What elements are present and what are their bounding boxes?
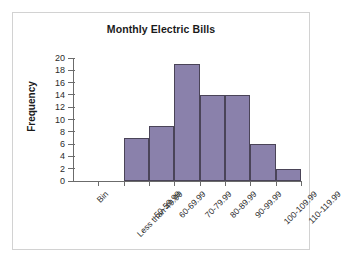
y-tick-label: 10 (55, 115, 65, 125)
x-tick-mark (200, 181, 201, 186)
bar (149, 126, 174, 181)
y-tick: 2 (13, 164, 81, 174)
y-tick-label: 6 (60, 139, 65, 149)
bar (200, 95, 225, 181)
y-tick-label: 18 (55, 65, 65, 75)
y-tick: 6 (13, 139, 81, 149)
x-tick-label: 70-79.99 (202, 189, 233, 220)
y-tick: 8 (13, 127, 81, 137)
x-tick-mark (98, 181, 99, 186)
bar (276, 169, 301, 181)
y-tick-label: 12 (55, 102, 65, 112)
y-tick: 16 (13, 78, 81, 88)
y-tick: 0 (13, 176, 81, 186)
y-tick-label: 2 (60, 164, 65, 174)
y-tick: 10 (13, 115, 81, 125)
x-tick-mark (225, 181, 226, 186)
y-tick: 4 (13, 151, 81, 161)
plot-wrapper: Frequency 02468101214161820 BinLess than… (13, 13, 311, 251)
bar (225, 95, 250, 181)
y-tick-label: 8 (60, 127, 65, 137)
x-axis-line (73, 181, 302, 182)
bar (174, 64, 199, 181)
x-tick-mark (250, 181, 251, 186)
bar (124, 138, 149, 181)
chart-frame: Monthly Electric Bills Frequency 0246810… (12, 12, 310, 250)
x-tick-mark (124, 181, 125, 186)
y-tick-label: 20 (55, 53, 65, 63)
y-tick: 12 (13, 102, 81, 112)
y-tick-label: 0 (60, 176, 65, 186)
plot-area (73, 58, 301, 181)
y-tick: 18 (13, 65, 81, 75)
x-tick-mark (149, 181, 150, 186)
y-tick: 20 (13, 53, 81, 63)
x-tick-mark (276, 181, 277, 186)
y-tick: 14 (13, 90, 81, 100)
x-tick-label: Bin (95, 189, 111, 205)
y-tick-label: 16 (55, 78, 65, 88)
y-tick-label: 4 (60, 151, 65, 161)
y-tick-label: 14 (55, 90, 65, 100)
x-tick-mark (301, 181, 302, 186)
bar (250, 144, 275, 181)
x-tick-mark (174, 181, 175, 186)
x-tick-label: 50-59.99 (152, 189, 183, 220)
